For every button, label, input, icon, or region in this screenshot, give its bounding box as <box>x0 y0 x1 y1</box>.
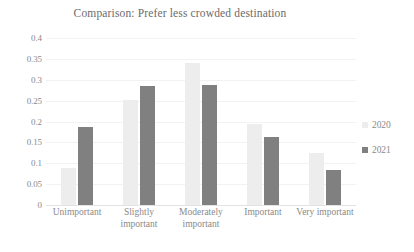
bar-2020 <box>123 100 138 205</box>
y-axis-tick-label: 0.05 <box>27 179 42 189</box>
y-axis-tick-label: 0.2 <box>31 117 42 127</box>
y-axis-tick-label: 0.25 <box>27 96 42 106</box>
y-axis-tick-label: 0.15 <box>27 137 42 147</box>
bar-2021 <box>264 137 279 205</box>
bar-chart: Comparison: Prefer less crowded destinat… <box>0 0 414 252</box>
bars-layer <box>46 38 356 205</box>
axis-baseline <box>46 205 356 206</box>
bar-2021 <box>78 127 93 205</box>
legend: 20202021 <box>362 112 414 162</box>
bar-2021 <box>202 85 217 205</box>
bar-group <box>232 38 294 205</box>
legend-entry-2021[interactable]: 2021 <box>362 137 414 162</box>
bar-group <box>46 38 108 205</box>
legend-label: 2020 <box>372 120 391 130</box>
bar-2020 <box>309 153 324 205</box>
x-axis: UnimportantSlightly importantModerately … <box>46 207 356 249</box>
y-axis-tick-label: 0.3 <box>31 75 42 85</box>
y-axis-tick-label: 0.1 <box>31 158 42 168</box>
y-axis: 0.40.350.30.250.20.150.10.050 <box>0 38 42 205</box>
bar-2021 <box>326 170 341 205</box>
legend-swatch-icon <box>362 122 368 128</box>
bar-group <box>294 38 356 205</box>
legend-swatch-icon <box>362 147 368 153</box>
y-axis-tick-label: 0.4 <box>31 33 42 43</box>
y-axis-tick-label: 0.35 <box>27 54 42 64</box>
bar-group <box>108 38 170 205</box>
x-axis-tick-label: Very important <box>287 207 364 219</box>
bar-2020 <box>247 124 262 205</box>
legend-entry-2020[interactable]: 2020 <box>362 112 414 137</box>
legend-label: 2021 <box>372 145 391 155</box>
bar-2020 <box>61 168 76 205</box>
bar-2020 <box>185 63 200 205</box>
chart-title: Comparison: Prefer less crowded destinat… <box>0 7 360 19</box>
bar-2021 <box>140 86 155 205</box>
bar-group <box>170 38 232 205</box>
